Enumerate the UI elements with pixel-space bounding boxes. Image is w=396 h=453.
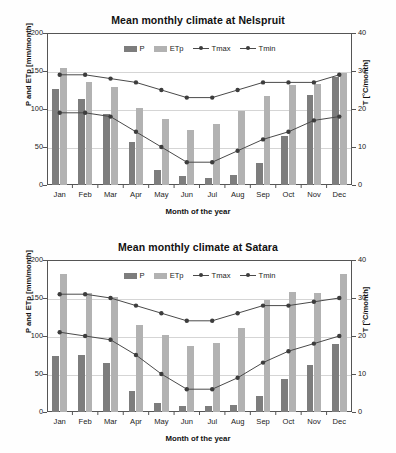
bar-etp xyxy=(213,343,220,412)
y-tick-label-right: 20 xyxy=(358,105,380,112)
tmin-marker xyxy=(337,334,341,338)
y-axis-label-right: T [°C/month] xyxy=(361,250,370,370)
tmax-marker xyxy=(286,80,290,84)
y-tick-label-right: 40 xyxy=(358,29,380,36)
chart-legend: P ETp Tmax Tmin xyxy=(47,271,352,280)
bar-precipitation xyxy=(154,170,161,185)
x-tick-nov: Nov xyxy=(301,417,326,429)
tmin-line xyxy=(60,332,340,389)
plot-graphics xyxy=(47,260,352,412)
legend-line-tmax-icon xyxy=(193,45,209,52)
y-tick-mark-right xyxy=(352,185,356,186)
tmax-marker xyxy=(261,80,265,84)
legend-item-tmin: Tmin xyxy=(240,271,276,280)
tmax-marker xyxy=(83,73,87,77)
bar-precipitation xyxy=(332,77,339,185)
y-tick-label-right: 10 xyxy=(358,143,380,150)
tmax-marker xyxy=(286,303,290,307)
x-tick-apr: Apr xyxy=(123,417,148,429)
x-axis-label: Month of the year xyxy=(0,207,396,216)
tmin-marker xyxy=(108,114,112,118)
y-tick-mark-right xyxy=(352,71,356,72)
x-tick-jan: Jan xyxy=(47,417,72,429)
tmax-marker xyxy=(312,80,316,84)
tmin-marker xyxy=(134,130,138,134)
bar-etp xyxy=(136,325,143,412)
y-tick-mark-left xyxy=(43,412,47,413)
bar-etp xyxy=(314,84,321,185)
tmin-marker xyxy=(159,372,163,376)
tmin-marker xyxy=(159,145,163,149)
tmax-marker xyxy=(134,80,138,84)
bar-precipitation xyxy=(332,344,339,412)
legend-line-tmin-icon xyxy=(240,45,256,52)
x-axis-tick-labels: Jan Feb Mar Apr May Jun Jul Aug Sep Oct … xyxy=(47,190,352,202)
legend-label-etp: ETp xyxy=(170,271,184,280)
y-tick-label-left: 50 xyxy=(19,370,43,377)
tmax-marker xyxy=(108,76,112,80)
y-tick-mark-right xyxy=(352,412,356,413)
y-tick-mark-left xyxy=(43,260,47,261)
y-tick-label-left: 50 xyxy=(19,143,43,150)
chart-satara: Mean monthly climate at Satara P ETp Tma… xyxy=(0,227,396,453)
bar-precipitation xyxy=(205,178,212,185)
x-tick-oct: Oct xyxy=(276,417,301,429)
y-tick-label-right: 30 xyxy=(358,67,380,74)
figure-page: Mean monthly climate at Nelspruit P ETp … xyxy=(0,0,396,453)
bar-precipitation xyxy=(281,379,288,412)
x-tick-jul: Jul xyxy=(200,190,225,202)
y-tick-mark-left xyxy=(43,147,47,148)
tmax-marker xyxy=(134,303,138,307)
bar-precipitation xyxy=(205,406,212,412)
bar-etp xyxy=(340,73,347,185)
bar-precipitation xyxy=(52,356,59,412)
tmin-marker xyxy=(58,111,62,115)
y-tick-label-left: 0 xyxy=(19,408,43,415)
legend-item-etp: ETp xyxy=(154,271,184,280)
x-tick-jan: Jan xyxy=(47,190,72,202)
x-tick-aug: Aug xyxy=(225,417,250,429)
tmin-marker xyxy=(134,353,138,357)
legend-item-tmin: Tmin xyxy=(240,44,276,53)
x-tick-may: May xyxy=(149,190,174,202)
tmin-marker xyxy=(312,118,316,122)
tmin-marker xyxy=(185,160,189,164)
legend-item-p: P xyxy=(124,271,145,280)
y-tick-label-left: 100 xyxy=(19,332,43,339)
y-tick-mark-left xyxy=(43,185,47,186)
tmin-marker xyxy=(210,387,214,391)
legend-swatch-etp-icon xyxy=(154,46,167,52)
legend-item-etp: ETp xyxy=(154,44,184,53)
tmin-marker xyxy=(108,338,112,342)
tmax-marker xyxy=(312,300,316,304)
bar-etp xyxy=(264,300,271,412)
y-tick-label-right: 40 xyxy=(358,256,380,263)
y-tick-label-left: 0 xyxy=(19,181,43,188)
bar-etp xyxy=(340,274,347,412)
plot-graphics xyxy=(47,33,352,185)
legend-line-tmin-icon xyxy=(240,272,256,279)
legend-line-tmax-icon xyxy=(193,272,209,279)
tmin-marker xyxy=(312,341,316,345)
tmin-marker xyxy=(286,349,290,353)
tmax-marker xyxy=(83,292,87,296)
x-axis-tick-labels: Jan Feb Mar Apr May Jun Jul Aug Sep Oct … xyxy=(47,417,352,429)
x-tick-aug: Aug xyxy=(225,190,250,202)
tmin-line xyxy=(60,113,340,162)
tmin-marker xyxy=(83,334,87,338)
y-tick-mark-right xyxy=(352,374,356,375)
y-tick-mark-right xyxy=(352,336,356,337)
tmin-marker xyxy=(261,360,265,364)
tmin-marker xyxy=(83,111,87,115)
x-tick-oct: Oct xyxy=(276,190,301,202)
bar-etp xyxy=(238,328,245,412)
bar-precipitation xyxy=(129,142,136,185)
y-tick-label-left: 100 xyxy=(19,105,43,112)
legend-label-tmax: Tmax xyxy=(212,271,231,280)
tmax-marker xyxy=(337,296,341,300)
tmax-marker xyxy=(185,95,189,99)
y-tick-label-left: 200 xyxy=(19,29,43,36)
legend-item-p: P xyxy=(124,44,145,53)
y-tick-label-left: 150 xyxy=(19,67,43,74)
y-tick-mark-left xyxy=(43,374,47,375)
